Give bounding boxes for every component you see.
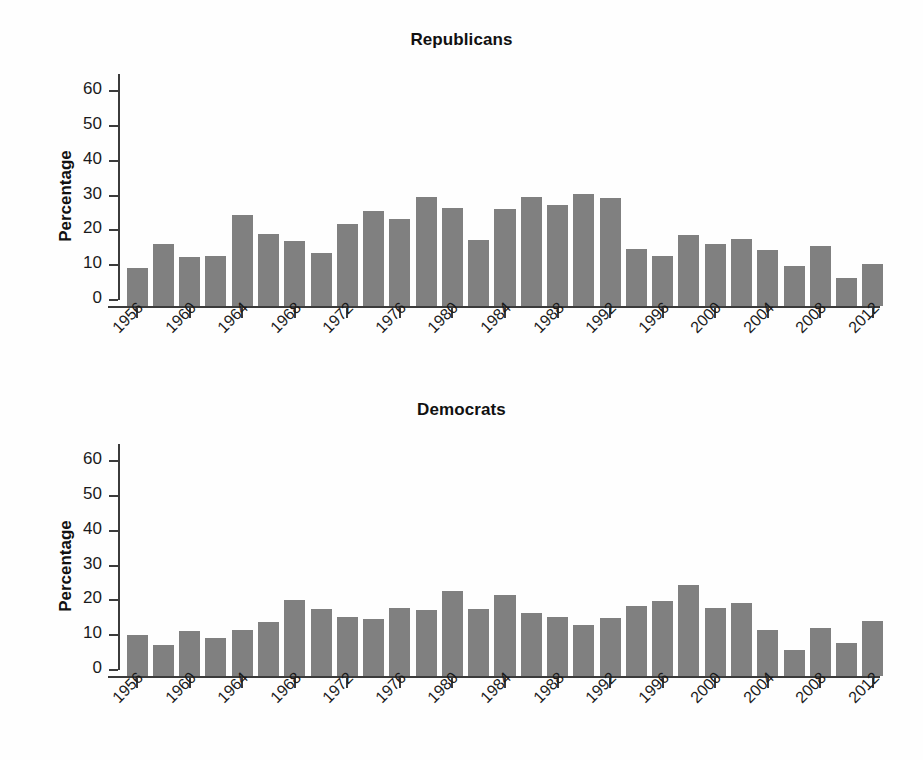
bar [153, 244, 174, 306]
bar [232, 630, 253, 676]
bar [416, 610, 437, 676]
y-tick-label: 0 [93, 288, 102, 308]
y-tick-label: 20 [83, 588, 102, 608]
bar [705, 608, 726, 676]
y-tick-label: 20 [83, 218, 102, 238]
y-tick: 0 [109, 299, 118, 301]
bar [311, 253, 332, 306]
y-tick-label: 10 [83, 253, 102, 273]
bar [600, 618, 621, 676]
y-tick: 60 [109, 90, 118, 92]
bar [127, 635, 148, 676]
y-tick-label: 10 [83, 623, 102, 643]
chart-panel-republicans: Republicans Percentage 0102030405060 195… [0, 14, 923, 380]
y-tick: 20 [109, 229, 118, 231]
bar [363, 211, 384, 306]
y-tick: 30 [109, 565, 118, 567]
bar [442, 208, 463, 306]
bar [153, 645, 174, 676]
y-tick: 40 [109, 530, 118, 532]
y-tick-label: 60 [83, 449, 102, 469]
bar [311, 609, 332, 676]
bar [416, 197, 437, 306]
bar [652, 256, 673, 306]
chart-panel-democrats: Democrats Percentage 0102030405060 19561… [0, 384, 923, 750]
panel-title-republicans: Republicans [0, 30, 923, 50]
y-tick-label: 60 [83, 79, 102, 99]
bar [494, 595, 515, 676]
plot-area-democrats: 0102030405060 19561960196419681972197619… [118, 444, 880, 670]
panel-title-democrats: Democrats [0, 400, 923, 420]
bar [784, 650, 805, 676]
y-tick-label: 30 [83, 554, 102, 574]
bar [626, 606, 647, 676]
bar [468, 609, 489, 676]
y-tick: 10 [109, 634, 118, 636]
bar [862, 264, 883, 306]
y-tick: 40 [109, 160, 118, 162]
x-tick-label: 1956 [109, 299, 147, 337]
bar [363, 619, 384, 676]
bar [836, 643, 857, 676]
bar [810, 246, 831, 306]
bar [626, 249, 647, 306]
bar-series-republicans [118, 74, 880, 306]
bar [389, 608, 410, 676]
bar [284, 241, 305, 306]
bar [258, 234, 279, 306]
bar [757, 250, 778, 306]
bar [521, 197, 542, 306]
bar [547, 205, 568, 306]
y-axis-label-republicans: Percentage [56, 116, 76, 276]
y-tick-label: 30 [83, 184, 102, 204]
bar [205, 256, 226, 306]
bar [494, 209, 515, 306]
y-tick: 30 [109, 195, 118, 197]
bar [757, 630, 778, 676]
bar [389, 219, 410, 306]
x-tick-label: 1956 [109, 669, 147, 707]
bar [652, 601, 673, 676]
bar [547, 617, 568, 676]
bar [258, 622, 279, 676]
figure-canvas: Republicans Percentage 0102030405060 195… [0, 0, 923, 760]
y-tick-label: 50 [83, 114, 102, 134]
bar [678, 585, 699, 676]
y-tick: 50 [109, 495, 118, 497]
plot-area-republicans: 0102030405060 19561960196419681972197619… [118, 74, 880, 300]
bar-series-democrats [118, 444, 880, 676]
y-tick: 50 [109, 125, 118, 127]
bar [179, 631, 200, 676]
bar [862, 621, 883, 676]
bar [600, 198, 621, 306]
bar [232, 215, 253, 306]
bar [573, 625, 594, 676]
bar [337, 224, 358, 306]
y-tick: 0 [109, 669, 118, 671]
y-tick: 10 [109, 264, 118, 266]
bar [284, 600, 305, 676]
bar [179, 257, 200, 306]
y-tick-label: 0 [93, 658, 102, 678]
bar [337, 617, 358, 676]
bar [442, 591, 463, 676]
y-tick-label: 50 [83, 484, 102, 504]
bar [731, 603, 752, 676]
bar [836, 278, 857, 306]
y-tick: 20 [109, 599, 118, 601]
y-axis-label-democrats: Percentage [56, 486, 76, 646]
bar [731, 239, 752, 306]
bar [521, 613, 542, 676]
bar [573, 194, 594, 306]
bar [468, 240, 489, 306]
y-tick: 60 [109, 460, 118, 462]
y-tick-label: 40 [83, 149, 102, 169]
y-tick-label: 40 [83, 519, 102, 539]
bar [205, 638, 226, 676]
bar [784, 266, 805, 306]
bar [705, 244, 726, 306]
bar [678, 235, 699, 306]
bar [810, 628, 831, 676]
